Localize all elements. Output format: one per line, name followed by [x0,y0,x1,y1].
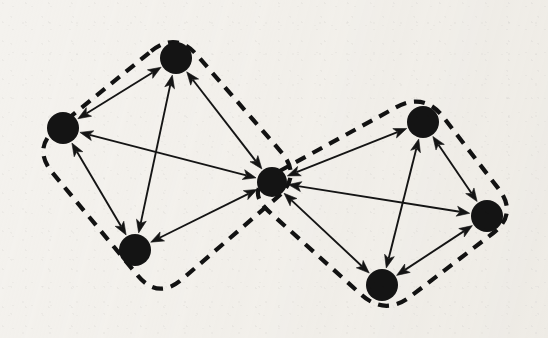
cluster-boundary-left [43,42,291,289]
arrowhead-e2-to-n1 [72,143,83,157]
graph-node-n5[interactable] [407,106,439,138]
graph-node-n1[interactable] [47,112,79,144]
graph-node-n2[interactable] [160,42,192,74]
figure-canvas [0,0,548,338]
edge-n4-n6 [298,186,460,212]
arrowhead-e2-to-n3 [115,221,126,235]
node-link-diagram [0,0,548,338]
edge-n4-n5 [297,132,398,172]
arrowhead-e1-to-n2 [147,67,161,78]
edge-n2-n4 [193,80,256,161]
arrowhead-e10-to-n6 [466,188,477,202]
graph-node-n7[interactable] [366,269,398,301]
arrowhead-e5-to-n4 [250,156,262,169]
edge-n5-n6 [438,145,471,194]
graph-node-n3[interactable] [119,234,151,266]
arrowhead-e12-to-n6 [459,226,473,237]
edge-n1-n4 [90,135,247,175]
edge-n1-n3 [77,152,121,227]
arrowhead-e10-to-n5 [433,136,444,150]
arrowhead-e12-to-n7 [397,264,411,275]
graph-node-n6[interactable] [471,200,503,232]
edge-n6-n7 [405,231,464,270]
arrowhead-e1-to-n1 [78,108,92,119]
graph-node-n4[interactable] [257,167,287,197]
edge-n4-n7 [291,200,362,266]
arrowhead-e5-to-n2 [187,72,199,85]
